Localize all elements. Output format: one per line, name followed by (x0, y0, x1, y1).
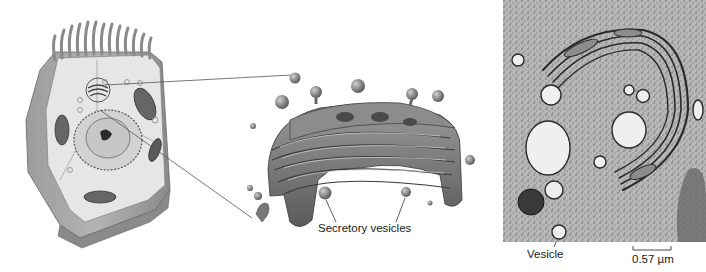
mitochondrion (55, 115, 69, 145)
secretory-vesicle (401, 187, 411, 197)
electron-micrograph (503, 0, 706, 242)
scale-bar (633, 246, 671, 250)
golgi-illustration (247, 73, 475, 227)
secretory-vesicles-label: Secretory vesicles (318, 222, 411, 234)
vesicle-label: Vesicle (527, 248, 563, 260)
leader-line (396, 198, 405, 222)
secretory-vesicle (319, 187, 332, 200)
scale-bar-label: 0.57 µm (632, 253, 674, 265)
cell-illustration (26, 22, 170, 248)
leader-line (326, 200, 336, 222)
mitochondrion (84, 191, 116, 203)
